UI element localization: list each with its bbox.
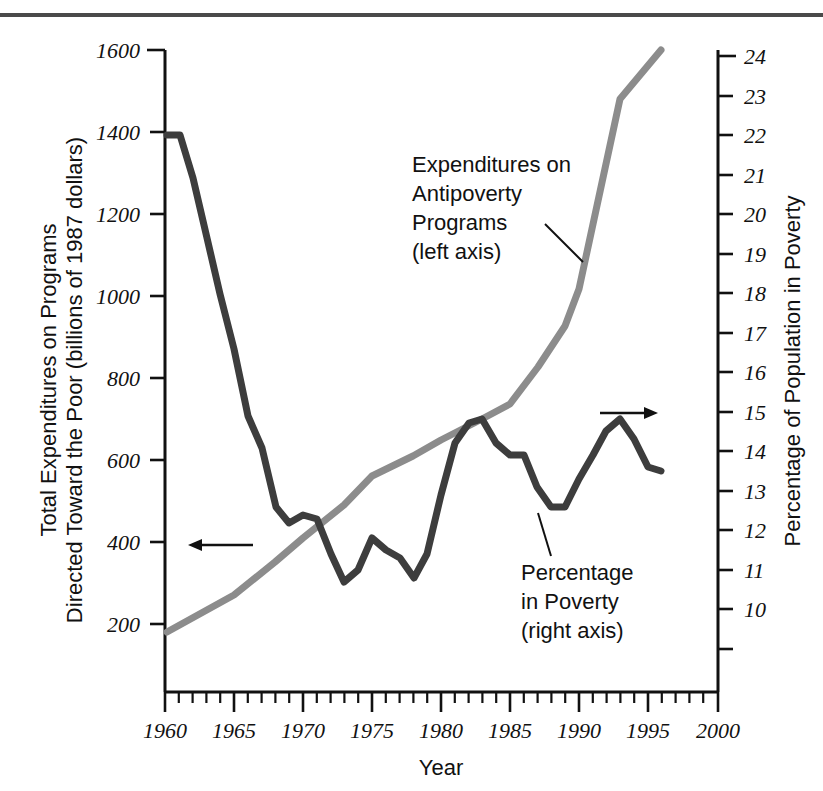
right-y-axis-ticks <box>718 56 736 649</box>
figure-container: 1600 1400 1200 1000 800 600 400 200 <box>0 0 823 791</box>
left-tick-label-1400: 1400 <box>96 120 140 145</box>
expenditure-annotation-line-4: (left axis) <box>412 239 501 264</box>
poverty-annotation-line-2: in Poverty <box>521 589 619 614</box>
right-tick-label-18: 18 <box>744 281 766 306</box>
x-tick-label-1995: 1995 <box>626 718 670 743</box>
left-y-axis-title-line1: Total Expenditures on Programs <box>36 223 61 536</box>
x-tick-label-2000: 2000 <box>696 718 740 743</box>
x-axis-title: Year <box>419 755 463 780</box>
left-tick-label-600: 600 <box>107 448 140 473</box>
expenditure-annotation-line-3: Programs <box>412 210 507 235</box>
poverty-annotation-line-1: Percentage <box>521 560 634 585</box>
right-y-axis: 24 23 22 21 20 19 18 17 16 15 14 13 12 1… <box>718 44 767 692</box>
left-axis-pointer <box>188 539 253 551</box>
x-axis: 1960 1965 1970 1975 1980 1985 1990 1995 … <box>143 692 740 743</box>
left-y-axis-ticks <box>147 50 165 624</box>
x-tick-label-1960: 1960 <box>143 718 187 743</box>
right-tick-label-21: 21 <box>744 163 766 188</box>
right-tick-label-16: 16 <box>744 360 766 385</box>
poverty-annotation-line-3: (right axis) <box>521 618 624 643</box>
chart-canvas: 1600 1400 1200 1000 800 600 400 200 <box>0 0 823 791</box>
poverty-annotation: Percentage in Poverty (right axis) <box>521 513 634 643</box>
right-tick-label-20: 20 <box>744 202 766 227</box>
right-arrow-icon <box>644 407 658 419</box>
right-tick-label-17: 17 <box>744 321 767 346</box>
expenditure-annotation-line-1: Expenditures on <box>412 152 571 177</box>
left-tick-label-800: 800 <box>107 366 140 391</box>
right-tick-label-14: 14 <box>744 439 766 464</box>
right-tick-label-10: 10 <box>744 597 766 622</box>
right-tick-label-23: 23 <box>744 84 766 109</box>
left-tick-label-200: 200 <box>107 612 140 637</box>
right-y-axis-title: Percentage of Population in Poverty <box>780 195 805 546</box>
left-y-axis-title: Total Expenditures on Programs Directed … <box>36 137 87 623</box>
expenditure-annotation: Expenditures on Antipoverty Programs (le… <box>412 152 583 264</box>
x-tick-label-1970: 1970 <box>281 718 325 743</box>
right-tick-label-15: 15 <box>744 400 766 425</box>
right-tick-label-19: 19 <box>744 242 766 267</box>
right-tick-label-22: 22 <box>744 123 766 148</box>
left-y-axis-title-line2: Directed Toward the Poor (billions of 19… <box>62 137 87 623</box>
x-tick-label-1990: 1990 <box>557 718 601 743</box>
x-tick-label-1980: 1980 <box>419 718 463 743</box>
right-axis-pointer <box>600 407 658 419</box>
left-arrow-icon <box>188 539 202 551</box>
left-y-axis: 1600 1400 1200 1000 800 600 400 200 <box>96 38 165 692</box>
poverty-annotation-leader <box>538 513 551 556</box>
right-tick-label-12: 12 <box>744 518 766 543</box>
x-tick-label-1985: 1985 <box>488 718 532 743</box>
right-tick-label-11: 11 <box>744 558 764 583</box>
expenditure-annotation-leader <box>545 224 583 262</box>
left-tick-label-1000: 1000 <box>96 284 140 309</box>
left-tick-label-400: 400 <box>107 530 140 555</box>
right-tick-label-13: 13 <box>744 479 766 504</box>
left-tick-label-1600: 1600 <box>96 38 140 63</box>
x-tick-label-1975: 1975 <box>350 718 394 743</box>
left-tick-label-1200: 1200 <box>96 202 140 227</box>
right-tick-label-24: 24 <box>744 44 766 69</box>
expenditure-annotation-line-2: Antipoverty <box>412 181 522 206</box>
x-tick-label-1965: 1965 <box>212 718 256 743</box>
